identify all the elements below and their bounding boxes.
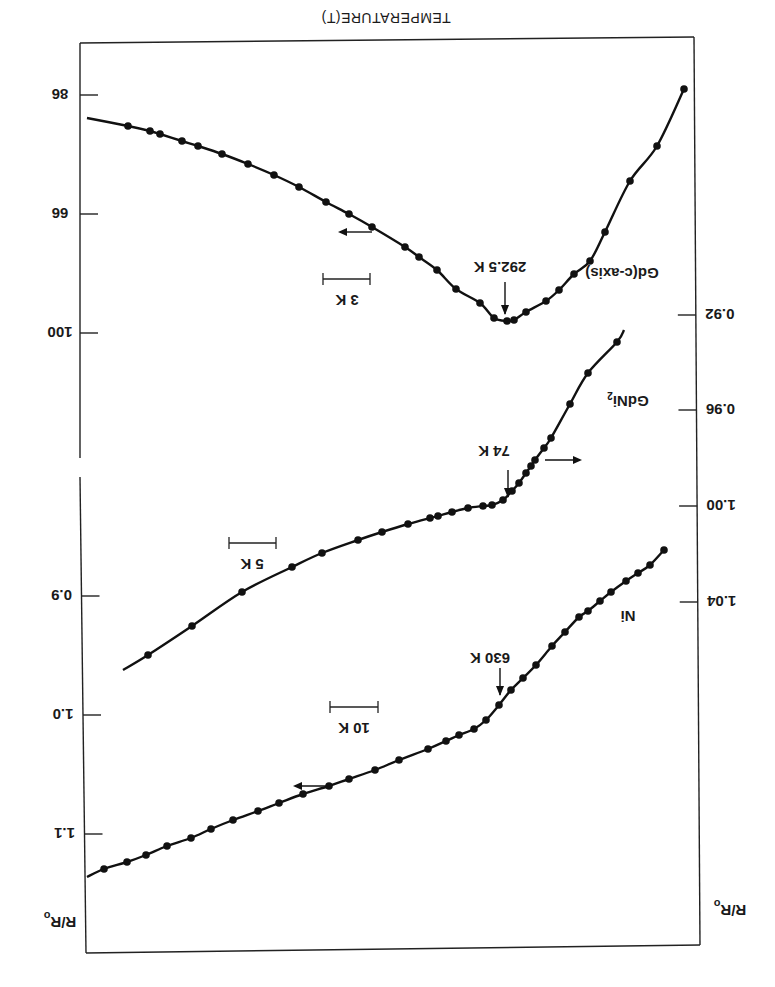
data-point: [455, 731, 463, 739]
gdni2-transition-label: 74 K: [478, 443, 510, 460]
svg-text:GdNi2: GdNi2: [607, 390, 649, 410]
gd-axis-arrow: [338, 228, 372, 236]
data-point: [634, 569, 642, 577]
data-point: [522, 469, 530, 477]
data-point: [144, 651, 152, 659]
gdni2-curve-line: [123, 330, 624, 670]
data-point: [510, 316, 518, 324]
gd-c-axis-curve-line: [87, 89, 684, 321]
gdni2-scale-label: 5 K: [240, 556, 264, 573]
data-point: [660, 546, 668, 554]
left-tick-label: 0.9: [51, 587, 72, 604]
data-point: [424, 745, 432, 753]
data-point: [124, 122, 132, 130]
ni-transition-marker: [496, 668, 504, 696]
ni-scale-bar: [330, 701, 378, 713]
data-point: [488, 501, 496, 509]
left-tick-label: 86: [52, 86, 69, 103]
right-tick-label: 0.96: [706, 401, 735, 418]
data-point: [345, 210, 353, 218]
data-point: [547, 434, 555, 442]
data-point: [470, 725, 478, 733]
left-axis-ticks: 86661000.91.01.1: [47, 86, 102, 842]
data-point: [626, 177, 634, 185]
data-point: [507, 686, 515, 694]
gd-scale-bar: [323, 273, 370, 285]
data-point: [322, 198, 330, 206]
data-point: [522, 308, 530, 316]
left-tick-label: 100: [47, 324, 72, 341]
data-point: [495, 701, 503, 709]
data-point: [163, 842, 171, 850]
data-point: [368, 223, 376, 231]
data-point: [566, 400, 574, 408]
gdni2-series-label: GdNi2: [607, 390, 649, 410]
data-point: [596, 597, 604, 605]
series-gdni2: [123, 330, 624, 670]
data-point: [426, 514, 434, 522]
data-point: [601, 228, 609, 236]
data-point: [540, 444, 548, 452]
svg-text:R/Ro: R/Ro: [713, 898, 746, 919]
gd-transition-label: 292.5 K: [474, 259, 527, 276]
data-point: [476, 299, 484, 307]
right-tick-label: 1.00: [706, 497, 735, 514]
data-point: [142, 851, 150, 859]
data-point: [622, 577, 630, 585]
gd-transition-marker: [501, 282, 509, 315]
left-tick-label: 1.0: [53, 706, 74, 723]
gd-scale-label: 3 K: [335, 292, 359, 309]
data-point: [555, 286, 563, 294]
data-point: [584, 369, 592, 377]
data-point: [561, 628, 569, 636]
data-point: [244, 160, 252, 168]
data-point: [532, 661, 540, 669]
gdni2-axis-arrow: [545, 456, 582, 464]
data-point: [100, 865, 108, 873]
data-point: [123, 858, 131, 866]
ni-scale-label: 10 K: [338, 720, 370, 737]
ni-series-label: Ni: [621, 608, 636, 625]
data-point: [519, 674, 527, 682]
data-point: [295, 183, 303, 191]
data-point: [299, 790, 307, 798]
gdni2-scale-bar: [229, 537, 276, 549]
data-point: [490, 314, 498, 322]
plot-frame: [80, 37, 700, 953]
left-tick-label: 66: [52, 205, 69, 222]
data-point: [238, 588, 246, 596]
data-point: [404, 520, 412, 528]
left-tick-label: 1.1: [54, 825, 75, 842]
data-point: [653, 142, 661, 150]
ni-axis-arrow: [293, 782, 330, 790]
data-point: [395, 756, 403, 764]
data-point: [178, 137, 186, 145]
svg-text:R/Ro: R/Ro: [43, 910, 76, 931]
data-point: [531, 456, 539, 464]
data-point: [218, 150, 226, 158]
left-axis-label: R/Ro: [43, 910, 76, 931]
data-point: [575, 613, 583, 621]
data-point: [680, 85, 688, 93]
right-tick-label: 1.04: [706, 593, 736, 610]
data-point: [318, 549, 326, 557]
data-point: [188, 622, 196, 630]
data-point: [371, 766, 379, 774]
data-point: [452, 285, 460, 293]
chart-title: TEMPERATURE(T): [321, 10, 451, 26]
ni-curve-line: [87, 550, 664, 877]
data-point: [401, 243, 409, 251]
data-point: [433, 266, 441, 274]
data-point: [434, 512, 442, 520]
data-point: [146, 127, 154, 135]
data-point: [187, 834, 195, 842]
data-point: [607, 588, 615, 596]
resistance-temperature-chart: TEMPERATURE(T) 86661000.91.01.1 0.920.96…: [0, 0, 775, 987]
ni-transition-label: 630 K: [470, 650, 510, 667]
data-point: [613, 338, 621, 346]
data-point: [156, 130, 164, 138]
data-point: [254, 807, 262, 815]
data-point: [354, 536, 362, 544]
data-point: [503, 317, 511, 325]
data-point: [515, 479, 523, 487]
